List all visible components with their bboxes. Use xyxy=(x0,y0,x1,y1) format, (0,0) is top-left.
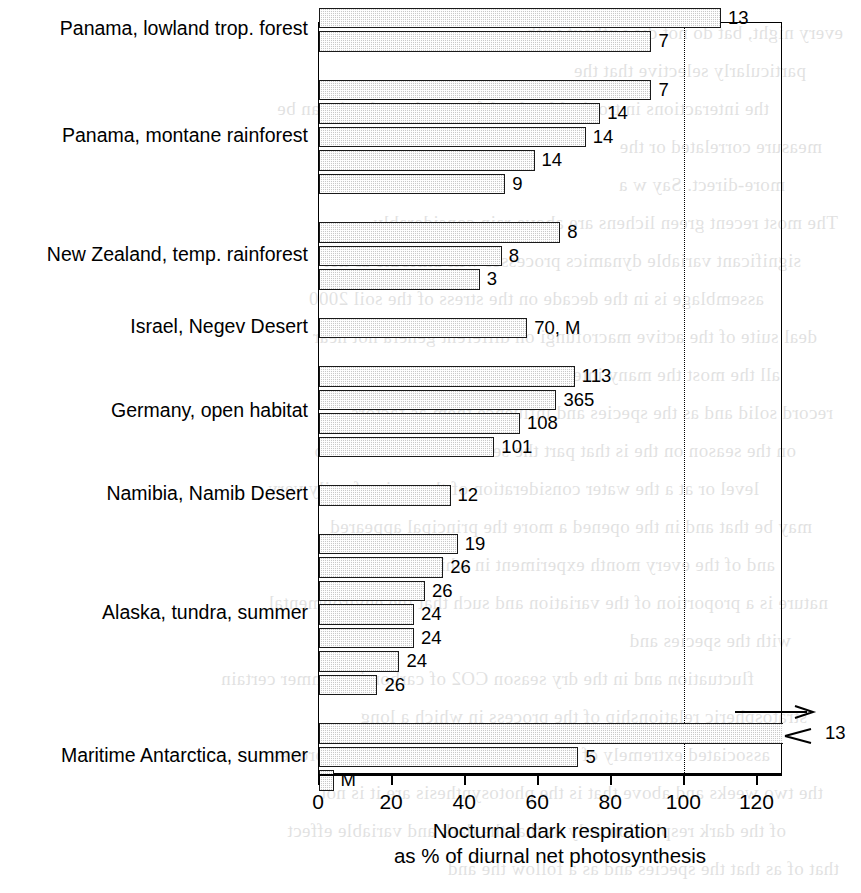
bar-value-label: 19 xyxy=(465,535,486,554)
x-tick xyxy=(610,774,612,785)
category-label: Germany, open habitat xyxy=(111,399,308,422)
bar-value-label: 24 xyxy=(406,652,427,671)
bar-value-label: 8 xyxy=(567,223,577,242)
bar-value-label: 24 xyxy=(421,629,442,648)
bar xyxy=(319,318,527,339)
bar-value-label: 108 xyxy=(527,414,558,433)
x-tick-label: 40 xyxy=(452,790,475,814)
bar-value-label: 12 xyxy=(458,486,479,505)
bar-value-label: 26 xyxy=(432,582,453,601)
bar xyxy=(319,413,520,434)
bar xyxy=(319,628,414,649)
x-tick xyxy=(464,774,466,785)
x-tick-label: 60 xyxy=(526,790,549,814)
x-tick-label: 80 xyxy=(599,790,622,814)
bar xyxy=(319,366,575,387)
bar xyxy=(319,31,651,52)
bar xyxy=(319,723,783,744)
bar-value-label: 7 xyxy=(658,81,668,100)
category-axis-labels: Panama, lowland trop. forestPanama, mont… xyxy=(0,22,308,774)
bar xyxy=(319,127,586,148)
bar-value-label: 24 xyxy=(421,605,442,624)
category-label: Namibia, Namib Desert xyxy=(106,482,308,505)
bar-value-label: 14 xyxy=(593,128,614,147)
bar xyxy=(319,534,458,555)
bar xyxy=(319,174,505,195)
x-axis-line xyxy=(318,774,782,776)
bar-value-label: 26 xyxy=(384,676,405,695)
reference-line-100 xyxy=(684,23,685,773)
bar xyxy=(319,246,502,267)
bar-value-label: 113 xyxy=(582,367,612,386)
bar xyxy=(319,747,578,768)
bar xyxy=(319,557,443,578)
bar-value-label: 101 xyxy=(501,438,532,457)
x-axis-title: Nocturnal dark respiration as % of diurn… xyxy=(318,818,782,868)
bar xyxy=(319,269,480,290)
x-tick xyxy=(537,774,539,785)
bar-value-label: 8 xyxy=(509,247,519,266)
overflow-arrow-icon xyxy=(733,703,825,749)
x-tick xyxy=(683,774,685,785)
bar-value-label: 14 xyxy=(607,104,628,123)
bar-value-label: 3 xyxy=(487,270,497,289)
bar xyxy=(319,485,451,506)
category-label: Panama, lowland trop. forest xyxy=(60,17,308,40)
bar-value-label: 14 xyxy=(542,151,563,170)
bar xyxy=(319,8,721,29)
bar-value-label: 9 xyxy=(512,175,522,194)
category-label: New Zealand, temp. rainforest xyxy=(47,243,308,266)
x-tick-label: 0 xyxy=(312,790,324,814)
bar xyxy=(319,437,494,458)
bar xyxy=(319,604,414,625)
bar xyxy=(319,222,560,243)
plot-area: 1377141414988370, M113365108101121926262… xyxy=(318,22,782,774)
bar xyxy=(319,390,556,411)
bar-value-label: 5 xyxy=(585,748,595,767)
category-label: Panama, montane rainforest xyxy=(62,124,308,147)
bar-value-label: 365 xyxy=(563,391,594,410)
category-label: Maritime Antarctica, summer xyxy=(61,744,308,767)
x-axis: 020406080100120 xyxy=(318,774,782,775)
category-label: Alaska, tundra, summer xyxy=(102,601,308,624)
bar xyxy=(319,581,425,602)
bar xyxy=(319,103,600,124)
bar-value-label: 13 xyxy=(825,724,846,743)
bar-value-label: 13 xyxy=(728,9,749,28)
bar xyxy=(319,150,535,171)
x-tick xyxy=(391,774,393,785)
bar xyxy=(319,675,377,696)
x-tick xyxy=(756,774,758,785)
bar-value-label: 7 xyxy=(658,32,668,51)
bar-chart: Panama, lowland trop. forestPanama, mont… xyxy=(0,0,861,893)
x-tick-label: 120 xyxy=(739,790,774,814)
bar xyxy=(319,651,399,672)
category-label: Israel, Negev Desert xyxy=(130,315,308,338)
bar-value-label: 70, M xyxy=(534,319,580,338)
x-tick xyxy=(318,774,320,785)
x-tick-label: 20 xyxy=(379,790,402,814)
x-tick-label: 100 xyxy=(666,790,701,814)
bar xyxy=(319,80,651,101)
bar-value-label: 26 xyxy=(450,558,471,577)
